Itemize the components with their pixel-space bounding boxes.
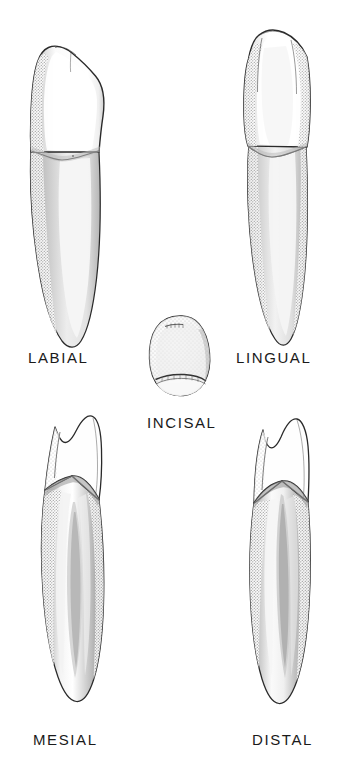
lingual-fossa-shade <box>262 46 293 145</box>
view-label-distal: DISTAL <box>252 731 313 748</box>
view-label-incisal: INCISAL <box>147 414 217 431</box>
view-label-lingual: LINGUAL <box>236 349 311 366</box>
view-label-labial: LABIAL <box>28 349 88 366</box>
view-label-mesial: MESIAL <box>33 731 98 748</box>
labial-surface-dot <box>72 155 74 157</box>
tooth-anatomy-figure: LABIAL LINGUAL <box>0 0 359 775</box>
